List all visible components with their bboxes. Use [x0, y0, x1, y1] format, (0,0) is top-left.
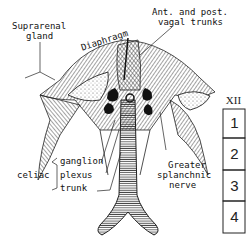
label-gland: gland [26, 32, 53, 41]
label-trunk: trunk [60, 184, 87, 193]
label-celiac: celiac [17, 171, 50, 180]
label-splanchnic: splanchnic [157, 171, 211, 180]
label-nerve: nerve [169, 181, 196, 190]
vertebra-label-3: 3 [224, 177, 245, 194]
label-plexus: plexus [60, 171, 93, 180]
label-vagal-line2: vagal trunks [158, 18, 223, 27]
vertebra-label-4: 4 [224, 208, 245, 225]
label-suprarenal: Suprarenal [12, 22, 66, 31]
esophagus [117, 40, 141, 90]
anatomical-diagram: Suprarenal gland Diaphragm Ant. and post… [0, 0, 250, 248]
vertebra-label-1: 1 [224, 114, 245, 131]
label-vagal-line1: Ant. and post. [152, 8, 228, 17]
vertebra-label-2: 2 [224, 145, 245, 162]
vertebra-label-xii: XII [223, 94, 244, 106]
label-ganglion: ganglion [60, 157, 103, 166]
label-greater: Greater [168, 161, 206, 170]
